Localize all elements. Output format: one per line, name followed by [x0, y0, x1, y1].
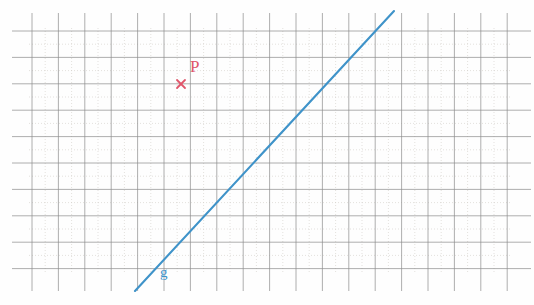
line-g: [135, 11, 394, 291]
grid-diagram-svg: [0, 0, 534, 305]
line-g-label: g: [160, 265, 168, 280]
diagram-canvas: P g: [0, 0, 534, 305]
major-gridlines-group: [12, 13, 531, 291]
point-p-label: P: [190, 58, 199, 75]
